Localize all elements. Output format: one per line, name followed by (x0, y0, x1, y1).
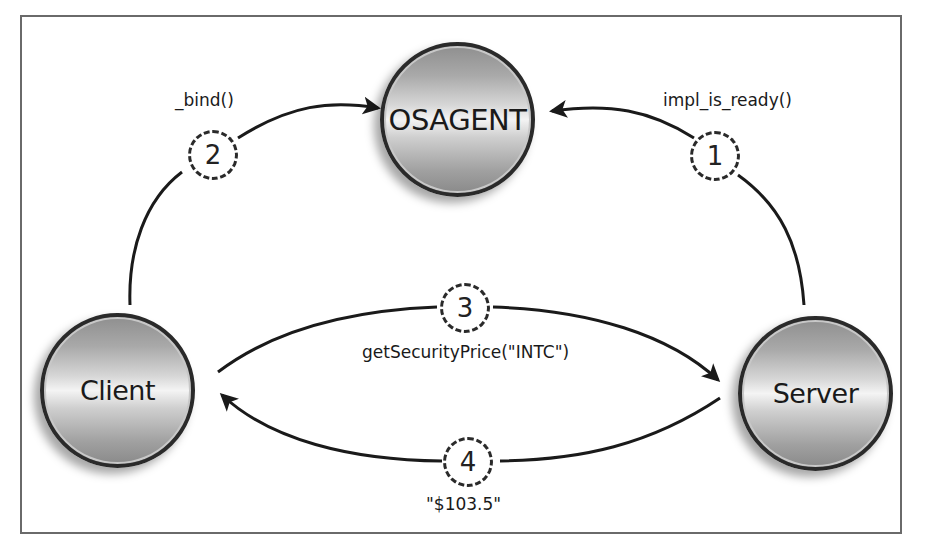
server-node: Server (738, 316, 893, 471)
arrow-server-to-step4 (500, 398, 720, 461)
step-3-label: getSecurityPrice("INTC") (362, 342, 569, 362)
step-1-badge: 1 (690, 131, 740, 181)
step-2-badge: 2 (188, 130, 238, 180)
client-label: Client (80, 375, 155, 406)
arrow-step4-to-client (222, 395, 442, 461)
step-4-number: 4 (460, 447, 477, 477)
arrow-client-to-step2 (130, 172, 182, 305)
step-3-number: 3 (457, 293, 474, 323)
osagent-node: OSAGENT (380, 42, 535, 197)
step-4-label: "$103.5" (426, 494, 501, 514)
arrow-step2-to-osagent (238, 105, 378, 138)
step-4-badge: 4 (443, 437, 493, 487)
step-3-badge: 3 (440, 283, 490, 333)
server-label: Server (773, 378, 859, 409)
step-2-number: 2 (205, 140, 222, 170)
osagent-label: OSAGENT (389, 103, 527, 137)
step-1-number: 1 (707, 141, 724, 171)
arrow-client-to-step3 (218, 307, 437, 372)
arrow-server-to-step1 (738, 175, 804, 305)
arrow-step1-to-osagent (552, 108, 694, 138)
step-1-label: impl_is_ready() (663, 90, 792, 110)
step-2-label: _bind() (175, 90, 234, 110)
client-node: Client (40, 313, 195, 468)
